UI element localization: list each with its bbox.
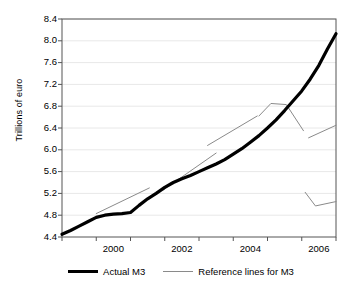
legend-swatch-actual-m3-icon [68,270,98,273]
reference-line-segment [305,192,336,206]
chart-container: 4.44.85.25.66.06.46.87.27.68.08.4 Trilli… [0,0,362,296]
reference-line-segment [259,103,304,130]
chart-legend: Actual M3 Reference lines for M3 [0,266,362,277]
x-axis-tick-label: 2004 [230,243,270,254]
legend-label-reference-lines: Reference lines for M3 [198,266,294,277]
reference-line-segment [309,125,336,138]
legend-swatch-reference-lines-icon [163,271,193,272]
legend-item-reference-lines: Reference lines for M3 [163,266,294,277]
actual-m3-line [62,34,336,235]
reference-line-segment [96,188,149,214]
legend-item-actual-m3: Actual M3 [68,266,145,277]
x-axis-tick-label: 2006 [299,243,339,254]
legend-label-actual-m3: Actual M3 [103,266,145,277]
x-axis-tick-label: 2000 [93,243,133,254]
x-axis-tick-label: 2002 [162,243,202,254]
